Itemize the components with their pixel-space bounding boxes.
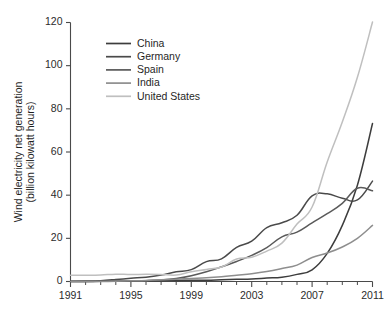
y-axis-tick-label: 60 <box>51 145 63 157</box>
x-axis-tick-label: 1999 <box>180 289 204 301</box>
series-lines <box>71 22 373 281</box>
y-axis-tick-label: 40 <box>51 188 63 200</box>
wind-electricity-line-chart: 020406080100120199119951999200320072011 … <box>0 0 384 315</box>
y-axis-tick-label: 100 <box>45 58 63 70</box>
legend-label-united-states: United States <box>137 90 200 102</box>
chart-canvas: 020406080100120199119951999200320072011 … <box>0 0 384 315</box>
series-line-united-states <box>71 22 373 275</box>
legend-label-germany: Germany <box>137 50 181 62</box>
x-axis-tick-label: 1991 <box>59 289 83 301</box>
y-axis-tick-label: 0 <box>57 274 63 286</box>
axis-titles: Wind electricity net generation(billion … <box>12 82 36 223</box>
legend-label-china: China <box>137 37 165 49</box>
series-line-china <box>71 124 373 282</box>
axes: 020406080100120199119951999200320072011 <box>45 15 384 300</box>
y-axis-title-line2: (billion kilowatt hours) <box>24 102 36 203</box>
x-axis-tick-label: 2003 <box>240 289 264 301</box>
y-axis-tick-label: 80 <box>51 102 63 114</box>
y-axis-tick-label: 120 <box>45 15 63 27</box>
y-axis-title-line1: Wind electricity net generation <box>12 82 24 223</box>
x-axis-tick-label: 2011 <box>361 289 384 301</box>
series-line-india <box>71 225 373 281</box>
chart-legend: ChinaGermanySpainIndiaUnited States <box>106 37 200 102</box>
x-axis-tick-label: 1995 <box>119 289 143 301</box>
x-axis-tick-label: 2007 <box>300 289 324 301</box>
legend-label-india: India <box>137 76 160 88</box>
legend-label-spain: Spain <box>137 63 164 75</box>
y-axis-tick-label: 20 <box>51 231 63 243</box>
